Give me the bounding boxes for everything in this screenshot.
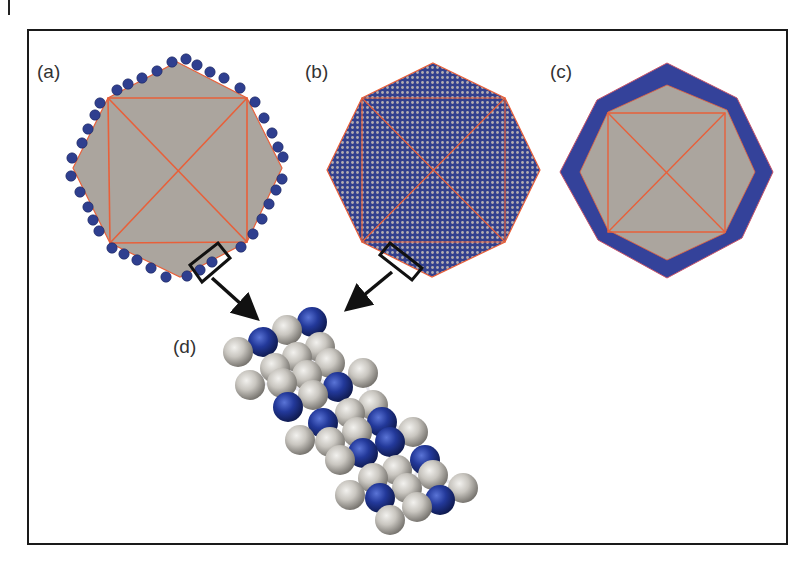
adsorbed-atom	[77, 138, 87, 148]
adsorbate-atom-sphere	[375, 427, 405, 457]
adsorbed-atom	[90, 110, 100, 120]
adsorbed-atom	[67, 153, 77, 163]
host-atom-sphere	[402, 492, 432, 522]
adsorbed-atom	[119, 249, 129, 259]
adsorbed-atom	[182, 271, 192, 281]
host-atom-sphere	[285, 425, 315, 455]
adsorbed-atom	[75, 187, 85, 197]
adsorbed-atom	[94, 226, 104, 236]
adsorbed-atom	[207, 257, 217, 267]
panel-d-label: (d)	[173, 336, 196, 357]
panel-b-label: (b)	[305, 61, 328, 82]
adsorbed-atom	[248, 229, 258, 239]
panel-a-label: (a)	[37, 61, 60, 82]
panel-b-arrow	[352, 272, 392, 305]
adsorbed-atom	[219, 73, 229, 83]
adsorbed-atom	[132, 255, 142, 265]
adsorbed-atom	[83, 202, 93, 212]
adsorbed-atom	[235, 83, 245, 93]
panel-c-label: (c)	[550, 61, 572, 82]
adsorbed-atom	[259, 113, 269, 123]
adsorbed-atom	[95, 98, 105, 108]
adsorbed-atom	[205, 67, 215, 77]
adsorbed-atom	[257, 214, 267, 224]
adsorbed-atom	[271, 185, 281, 195]
panel-d: (d)	[173, 307, 478, 535]
adsorbed-atom	[152, 66, 162, 76]
adsorbed-atom	[83, 124, 93, 134]
panel-c: (c)	[550, 61, 773, 278]
adsorbed-atom	[192, 60, 202, 70]
panel-a: (a)	[37, 54, 288, 314]
adsorbed-atom	[137, 73, 147, 83]
host-atom-sphere	[335, 480, 365, 510]
figure-canvas: (a) (b) (c) (d)	[0, 0, 812, 571]
adsorbed-atom	[264, 199, 274, 209]
adsorbed-atom	[161, 272, 171, 282]
adsorbed-atom	[250, 97, 260, 107]
adsorbed-atom	[167, 57, 177, 67]
adsorbed-atom	[88, 215, 98, 225]
adsorbed-atom	[112, 85, 122, 95]
adsorbed-atom	[123, 79, 133, 89]
adsorbed-atom	[278, 152, 288, 162]
panel-d-atom-cluster	[223, 307, 478, 535]
host-atom-sphere	[375, 505, 405, 535]
adsorbed-atom	[273, 142, 283, 152]
host-atom-sphere	[235, 370, 265, 400]
adsorbed-atom	[181, 54, 191, 64]
adsorbed-atom	[236, 242, 246, 252]
adsorbed-atom	[267, 128, 277, 138]
adsorbed-atom	[277, 174, 287, 184]
adsorbed-atom	[107, 243, 117, 253]
panel-b: (b)	[305, 61, 540, 305]
adsorbed-atom	[66, 171, 76, 181]
host-atom-sphere	[223, 337, 253, 367]
adsorbate-atom-sphere	[273, 392, 303, 422]
host-atom-sphere	[325, 445, 355, 475]
adsorbed-atom	[146, 263, 156, 273]
panel-a-arrow	[212, 278, 252, 314]
